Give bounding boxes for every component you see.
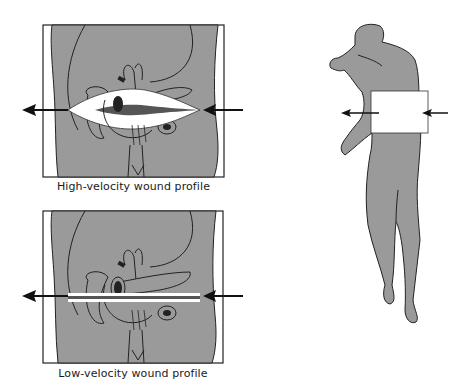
- low-velocity-panel: Low-velocity wound profile: [0, 200, 245, 391]
- human-silhouette-illustration: [300, 0, 466, 391]
- high-velocity-panel: High-velocity wound profile: [0, 0, 245, 200]
- high-velocity-caption: High-velocity wound profile: [43, 180, 224, 193]
- high-velocity-abdomen-illustration: [0, 0, 245, 200]
- low-velocity-abdomen-illustration: [0, 200, 245, 391]
- low-velocity-caption: Low-velocity wound profile: [43, 367, 223, 380]
- body-figure: [300, 0, 466, 391]
